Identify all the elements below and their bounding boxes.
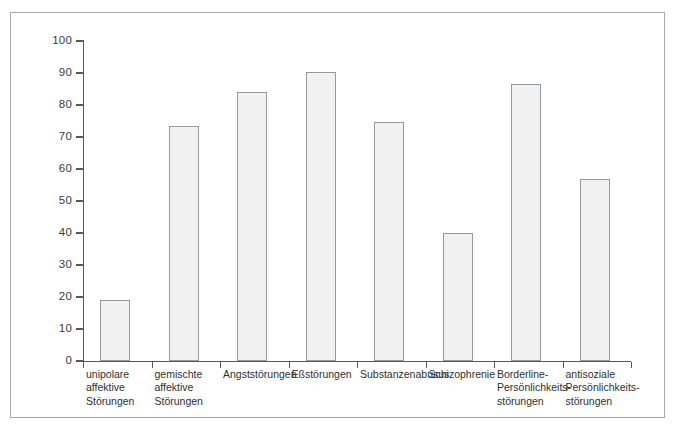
y-tick-label-100: 100	[32, 34, 72, 46]
y-tick-80	[76, 104, 83, 105]
category-label-1-line-2: Störungen	[155, 395, 203, 408]
y-tick-label-0: 0	[32, 354, 72, 366]
bar-1	[169, 126, 199, 361]
y-tick-label-30: 30	[32, 258, 72, 270]
y-tick-label-90: 90	[32, 66, 72, 78]
y-tick-40	[76, 232, 83, 233]
category-label-1: gemischteaffektiveStörungen	[155, 368, 203, 408]
y-tick-label-20: 20	[32, 290, 72, 302]
category-label-6: Borderline-Persönlichkeits-störungen	[497, 368, 571, 408]
category-label-2-line-0: Angststörungen	[223, 368, 297, 381]
category-label-6-line-1: Persönlichkeits-	[497, 381, 571, 394]
y-tick-90	[76, 72, 83, 73]
y-tick-label-50: 50	[32, 194, 72, 206]
y-tick-label-40: 40	[32, 226, 72, 238]
y-tick-70	[76, 136, 83, 137]
plot-area: 0102030405060708090100 unipolareaffektiv…	[0, 0, 677, 431]
y-tick-20	[76, 296, 83, 297]
bar-7	[580, 179, 610, 361]
category-label-7-line-2: störungen	[566, 395, 640, 408]
category-label-5: Schizophrenie	[429, 368, 496, 381]
category-label-0-line-0: unipolare	[86, 368, 134, 381]
category-label-7-line-0: antisoziale	[566, 368, 640, 381]
category-label-1-line-1: affektive	[155, 381, 203, 394]
category-label-6-line-0: Borderline-	[497, 368, 571, 381]
y-tick-100	[76, 40, 83, 41]
category-label-3-line-0: Eßstörungen	[292, 368, 352, 381]
y-axis-line	[83, 40, 84, 362]
bar-2	[237, 92, 267, 361]
bar-4	[374, 122, 404, 361]
category-label-3: Eßstörungen	[292, 368, 352, 381]
y-tick-10	[76, 328, 83, 329]
y-tick-60	[76, 168, 83, 169]
y-tick-label-70: 70	[32, 130, 72, 142]
y-tick-30	[76, 264, 83, 265]
figure-container: 0102030405060708090100 unipolareaffektiv…	[0, 0, 677, 431]
bar-5	[443, 233, 473, 361]
y-tick-label-60: 60	[32, 162, 72, 174]
category-label-7: antisozialePersönlichkeits-störungen	[566, 368, 640, 408]
y-tick-label-80: 80	[32, 98, 72, 110]
bar-6	[511, 84, 541, 361]
y-tick-50	[76, 200, 83, 201]
category-label-1-line-0: gemischte	[155, 368, 203, 381]
x-tick-1	[152, 362, 153, 368]
category-label-6-line-2: störungen	[497, 395, 571, 408]
category-label-0: unipolareaffektiveStörungen	[86, 368, 134, 408]
category-label-0-line-2: Störungen	[86, 395, 134, 408]
x-tick-0	[83, 362, 84, 368]
category-label-0-line-1: affektive	[86, 381, 134, 394]
y-tick-0	[76, 360, 83, 361]
x-tick-4	[357, 362, 358, 368]
category-label-2: Angststörungen	[223, 368, 297, 381]
bar-0	[100, 300, 130, 361]
category-label-7-line-1: Persönlichkeits-	[566, 381, 640, 394]
bar-3	[306, 72, 336, 361]
y-tick-label-10: 10	[32, 322, 72, 334]
category-label-5-line-0: Schizophrenie	[429, 368, 496, 381]
x-tick-2	[220, 362, 221, 368]
